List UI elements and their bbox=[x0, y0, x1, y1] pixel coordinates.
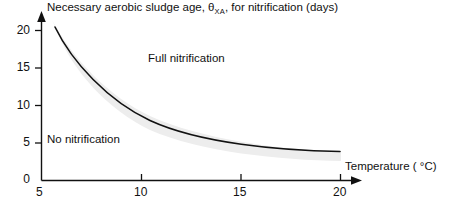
chart-title-pre: Necessary aerobic sludge age, θ bbox=[47, 1, 215, 13]
y-tick-label-15: 15 bbox=[10, 61, 30, 73]
nitrification-sludge-age-chart: Necessary aerobic sludge age, θXA, for n… bbox=[0, 0, 451, 217]
x-tick-label-15: 15 bbox=[233, 186, 246, 198]
chart-canvas bbox=[0, 0, 451, 217]
chart-title-subscript: XA bbox=[215, 7, 225, 16]
x-axis-label: Temperature ( °C) bbox=[345, 161, 437, 173]
y-tick-label-20: 20 bbox=[10, 24, 30, 36]
x-tick-label-10: 10 bbox=[134, 186, 147, 198]
y-tick-label-0: 0 bbox=[10, 173, 30, 185]
annotation-no-nitrification: No nitrification bbox=[47, 134, 120, 146]
y-tick-label-10: 10 bbox=[10, 99, 30, 111]
annotation-full-nitrification: Full nitrification bbox=[148, 53, 225, 65]
x-axis-arrow-icon bbox=[351, 176, 362, 185]
chart-title: Necessary aerobic sludge age, θXA, for n… bbox=[47, 2, 338, 16]
chart-title-post: , for nitrification (days) bbox=[225, 1, 338, 13]
y-axis-arrow-icon bbox=[37, 11, 46, 22]
y-tick-label-5: 5 bbox=[10, 136, 30, 148]
x-tick-label-20: 20 bbox=[333, 186, 346, 198]
x-tick-label-5: 5 bbox=[36, 186, 43, 198]
